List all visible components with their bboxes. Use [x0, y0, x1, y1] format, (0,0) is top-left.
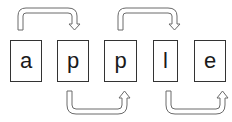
letter-box-l: l [153, 40, 178, 82]
letter-box-a: a [10, 40, 42, 82]
arrow-bottom-l-to-e [166, 91, 228, 114]
letter: p [67, 48, 79, 74]
arrow-bottom-p-to-p [67, 91, 130, 114]
letter: l [163, 48, 168, 74]
arrow-top-a-to-p [18, 8, 80, 30]
letter: p [114, 48, 126, 74]
letter-box-e: e [194, 40, 226, 82]
letter-box-p1: p [57, 40, 89, 82]
arrow-top-p-to-l [118, 8, 180, 30]
letter-box-p2: p [104, 40, 137, 82]
letter: e [204, 48, 216, 74]
letter: a [20, 48, 32, 74]
